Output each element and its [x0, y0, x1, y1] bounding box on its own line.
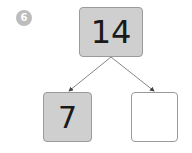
arrow-left [69, 57, 111, 91]
part-box-left: 7 [43, 92, 92, 142]
whole-box: 14 [79, 7, 143, 57]
arrow-right [111, 57, 154, 91]
part-box-right-empty[interactable] [131, 92, 178, 142]
